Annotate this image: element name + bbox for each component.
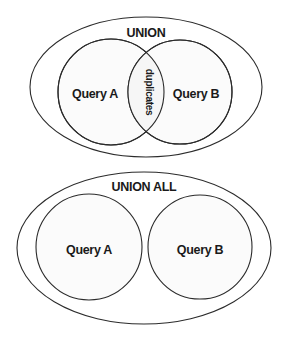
union-query-a-label: Query A <box>72 87 118 101</box>
union-all-query-a-label: Query A <box>66 243 112 257</box>
union-duplicates-label: duplicates <box>144 69 155 116</box>
union-query-b-label: Query B <box>173 87 220 101</box>
union-title: UNION <box>127 26 166 40</box>
union-all-query-b-label: Query B <box>177 243 224 257</box>
union-all-diagram: UNION ALL Query A Query B <box>17 172 271 324</box>
union-all-title: UNION ALL <box>112 180 178 194</box>
union-diagrams: UNION Query A Query B duplicates UNION A… <box>0 0 284 338</box>
union-diagram: UNION Query A Query B duplicates <box>30 17 262 157</box>
